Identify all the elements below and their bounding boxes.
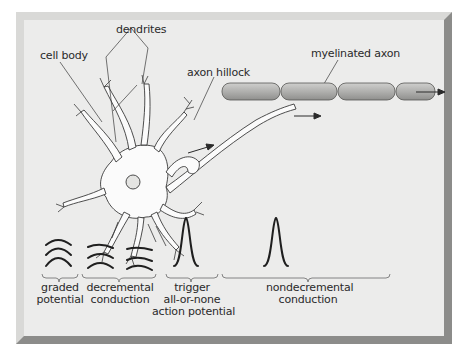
stage-label-line: action potential <box>152 306 232 318</box>
stage-trigger-action-potential: trigger all-or-none action potential <box>152 282 232 318</box>
label-axon-hillock: axon hillock <box>187 67 250 79</box>
stage-label-line: potential <box>36 294 84 306</box>
stage-label-line: conduction <box>266 294 350 306</box>
label-myelinated-axon: myelinated axon <box>311 48 400 60</box>
myelin-sheath-icon <box>222 83 435 100</box>
stage-graded-potential: graded potential <box>36 282 84 306</box>
figure-panel: dendrites cell body axon hillock myelina… <box>16 12 452 344</box>
label-dendrites: dendrites <box>116 24 166 36</box>
nucleus-icon <box>126 175 140 189</box>
stage-nondecremental-conduction: nondecremental conduction <box>266 282 350 306</box>
stage-decremental-conduction: decremental conduction <box>84 282 156 306</box>
stage-label-line: conduction <box>84 294 156 306</box>
label-cell-body: cell body <box>40 50 88 62</box>
